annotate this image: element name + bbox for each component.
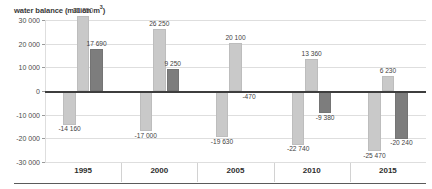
- y-axis-tick-label: 10 000: [19, 64, 40, 71]
- category-label-2015: 2015: [379, 166, 397, 175]
- y-axis-tick-label: 30 000: [19, 17, 40, 24]
- bar-value-label: -19 630: [211, 138, 233, 145]
- bar-value-label: 26 250: [149, 20, 169, 27]
- category-divider: [121, 163, 122, 182]
- y-axis-tick-label: 0: [36, 88, 40, 95]
- bar-value-label: -20 240: [390, 139, 412, 146]
- water-balance-bar-chart: water balance (million m3) 30 00020 0001…: [0, 0, 432, 189]
- chart-title-suffix: ): [103, 6, 105, 15]
- category-label-2005: 2005: [227, 166, 245, 175]
- bar-series-2-light-positive-1995: [77, 16, 90, 91]
- bar-value-label: -25 470: [363, 152, 385, 159]
- plot-area: 30 00020 00010 0000-10 000-20 000-30 000…: [45, 20, 426, 162]
- bar-value-label: 9 250: [165, 60, 182, 67]
- bar-value-label: -22 740: [287, 145, 309, 152]
- category-label-2000: 2000: [150, 166, 168, 175]
- bar-series-1-light-negative-2005: [216, 91, 229, 137]
- bar-series-3-dark-2000: [167, 69, 180, 91]
- bar-series-2-light-positive-2010: [305, 59, 318, 91]
- category-divider: [350, 163, 351, 182]
- bar-series-3-dark-1995: [90, 49, 103, 91]
- bar-series-3-dark-2010: [319, 91, 332, 113]
- category-divider: [274, 163, 275, 182]
- bar-series-1-light-negative-2010: [292, 91, 305, 145]
- bar-value-label: 17 690: [87, 40, 107, 47]
- bar-value-label: 31 850: [73, 7, 93, 14]
- category-divider: [197, 163, 198, 182]
- bar-value-label: 6 230: [380, 67, 397, 74]
- y-axis-tick-label: -30 000: [16, 159, 40, 166]
- y-axis-tick-label: -20 000: [16, 135, 40, 142]
- bar-value-label: 13 360: [302, 50, 322, 57]
- zero-axis-line: [45, 91, 426, 93]
- category-label-1995: 1995: [74, 166, 92, 175]
- axis-baseline: [14, 183, 426, 184]
- bar-value-label: -14 160: [58, 125, 80, 132]
- bar-series-1-light-negative-1995: [63, 91, 76, 125]
- bar-series-1-light-negative-2015: [368, 91, 381, 151]
- bar-value-label: -470: [242, 93, 255, 100]
- y-axis-tick-label: 20 000: [19, 40, 40, 47]
- bar-series-3-dark-2015: [395, 91, 408, 139]
- category-axis: 19952000200520102015: [45, 163, 426, 189]
- bar-series-2-light-positive-2005: [229, 43, 242, 91]
- category-label-2010: 2010: [303, 166, 321, 175]
- bar-value-label: -9 380: [316, 114, 335, 121]
- bar-value-label: 20 100: [225, 34, 245, 41]
- bar-series-2-light-positive-2015: [382, 76, 395, 91]
- bar-series-1-light-negative-2000: [140, 91, 153, 131]
- bar-value-label: -17 000: [135, 132, 157, 139]
- y-axis-tick-label: -10 000: [16, 111, 40, 118]
